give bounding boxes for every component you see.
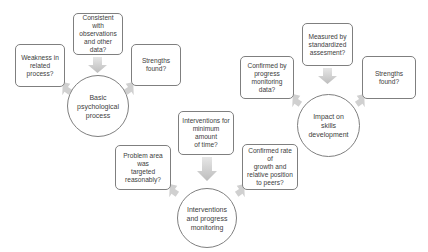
circle-label: Interventions and progress monitoring <box>187 205 228 232</box>
strengths-found-box-1: Strengths found? <box>131 44 181 86</box>
strengths-found-box-2: Strengths found? <box>362 56 416 99</box>
consistent-with-observations-box: Consistent with observations and other d… <box>73 13 123 55</box>
box-label: Consistent with observations and other d… <box>77 14 119 54</box>
down-arrow-icon <box>88 57 107 73</box>
measured-by-standardized-assessment-box: Measured by standardized assesment? <box>302 23 353 66</box>
circle-label: Basic psychological process <box>77 93 119 120</box>
circle-label: Impact on skills development <box>308 112 348 139</box>
box-label: Strengths found? <box>142 57 170 73</box>
box-label: Weakness in related process? <box>21 54 59 78</box>
impact-on-skills-development-circle: Impact on skills development <box>297 94 360 157</box>
confirmed-by-progress-monitoring-box: Confirmed by progress monitoring data? <box>240 56 294 99</box>
box-label: Confirmed rate of growth and relative po… <box>246 147 294 187</box>
box-label: Measured by standardized assesment? <box>308 33 346 57</box>
box-label: Confirmed by progress monitoring data? <box>244 62 290 94</box>
interventions-and-progress-monitoring-circle: Interventions and progress monitoring <box>177 188 237 248</box>
box-label: Strengths found? <box>366 70 412 86</box>
basic-psychological-process-circle: Basic psychological process <box>67 75 129 137</box>
problem-area-targeted-box: Problem area was targeted reasonably? <box>115 145 171 190</box>
down-arrow-icon <box>197 157 217 181</box>
box-label: Interventions for minimum amount of time… <box>182 117 230 149</box>
confirmed-rate-of-growth-box: Confirmed rate of growth and relative po… <box>242 144 298 190</box>
box-label: Problem area was targeted reasonably? <box>119 152 167 184</box>
weakness-in-related-process-box: Weakness in related process? <box>15 44 65 87</box>
diagram-canvas: Consistent with observations and other d… <box>0 0 428 252</box>
interventions-minimum-time-box: Interventions for minimum amount of time… <box>178 111 234 155</box>
down-arrow-icon <box>318 68 337 84</box>
